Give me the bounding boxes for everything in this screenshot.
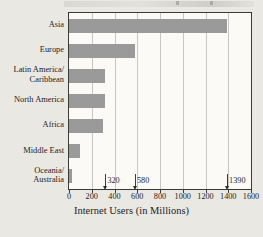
bar [69, 44, 135, 58]
x-axis-title: Internet Users (in Millions) [0, 205, 263, 216]
gridline [206, 13, 207, 189]
bar [69, 144, 80, 158]
x-tick-label: 600 [131, 192, 143, 201]
bar [69, 19, 227, 33]
x-tick-label: 1400 [220, 192, 236, 201]
bar [69, 69, 105, 83]
x-tick-label: 1200 [197, 192, 213, 201]
y-axis-label: North America [14, 95, 64, 104]
bar [69, 94, 105, 108]
y-axis-label: Europe [40, 45, 64, 54]
gridline [137, 13, 138, 189]
value-annotation-arrow [225, 186, 229, 190]
y-axis-category-labels: AsiaEuropeLatin America/ CaribbeanNorth … [0, 12, 66, 190]
bar [69, 119, 103, 133]
value-annotation-label: 1390 [229, 176, 245, 185]
x-tick-label: 400 [108, 192, 120, 201]
x-tick-label: 0 [67, 192, 71, 201]
plot-area [68, 12, 252, 190]
value-annotation-label: 580 [137, 176, 149, 185]
y-axis-label: Asia [49, 20, 64, 29]
x-tick-label: 1000 [175, 192, 191, 201]
value-annotation-label: 320 [107, 176, 119, 185]
gridline [115, 13, 116, 189]
bar [69, 169, 72, 183]
value-annotation-arrow [103, 186, 107, 190]
y-axis-label: Africa [43, 120, 64, 129]
gridline [228, 13, 229, 189]
y-axis-label: Oceania/ Australia [33, 166, 64, 185]
value-annotation-arrow [133, 186, 137, 190]
x-axis-tick-labels: 02004006008001000120014001600 [0, 192, 263, 204]
cropped-title-artifact [64, 1, 254, 7]
x-tick-label: 1600 [243, 192, 259, 201]
x-tick-label: 800 [154, 192, 166, 201]
y-axis-label: Middle East [23, 146, 64, 155]
chart-figure: AsiaEuropeLatin America/ CaribbeanNorth … [0, 0, 263, 237]
x-tick-label: 200 [86, 192, 98, 201]
gridline [160, 13, 161, 189]
gridline [183, 13, 184, 189]
y-axis-label: Latin America/ Caribbean [14, 65, 64, 84]
